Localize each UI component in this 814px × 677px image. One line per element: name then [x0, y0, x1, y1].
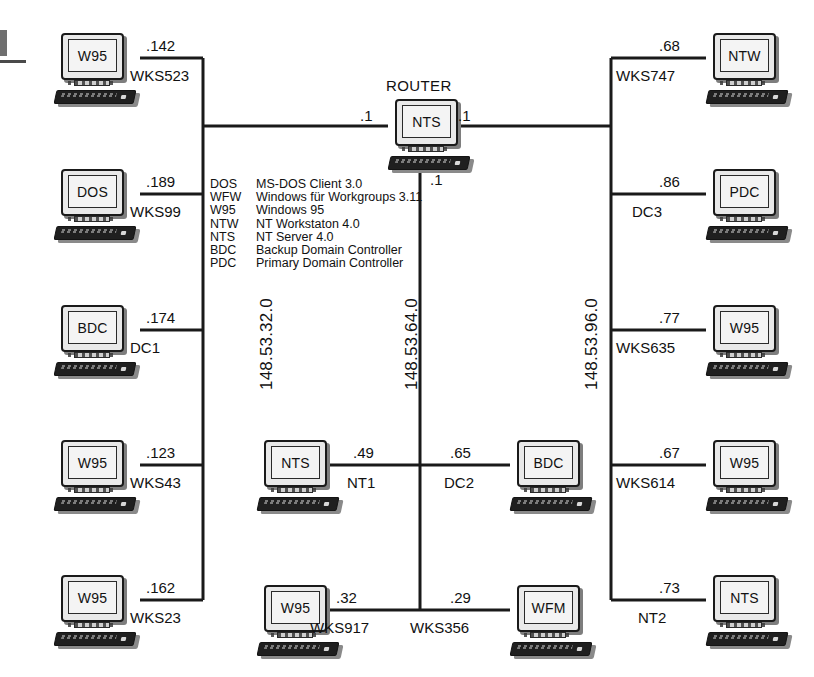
host-node[interactable]: W95 — [54, 574, 140, 650]
router-os-label: NTS — [412, 115, 441, 129]
host-os-label: WFM — [531, 601, 565, 615]
subnet-label-right: 148.53.96.0 — [583, 298, 600, 390]
host-name: DC2 — [444, 475, 474, 490]
host-os-label: NTS — [281, 456, 310, 470]
computer-icon: W95 — [54, 32, 140, 108]
monitor-vents — [402, 147, 450, 151]
host-os-label: DOS — [77, 185, 108, 199]
host-name: WKS99 — [130, 204, 181, 219]
computer-icon: W95 — [706, 439, 792, 515]
host-node[interactable]: NTS — [257, 439, 343, 515]
legend: DOS MS-DOS Client 3.0 WFW Windows für Wo… — [210, 178, 422, 270]
router-title: ROUTER — [386, 78, 452, 93]
host-ip: .67 — [659, 445, 680, 460]
host-os-label: W95 — [730, 456, 759, 470]
host-name: NT1 — [347, 475, 375, 490]
legend-row: NTW NT Workstaton 4.0 — [210, 218, 422, 231]
computer-icon: NTS — [706, 574, 792, 650]
host-os-label: PDC — [729, 185, 759, 199]
keyboard-indicator — [455, 161, 461, 165]
monitor-bezel: NTS — [395, 99, 458, 146]
keyboard — [388, 156, 471, 170]
computer-icon: NTW — [706, 32, 792, 108]
host-ip: .77 — [659, 310, 680, 325]
subnet-label-left: 148.53.32.0 — [258, 298, 275, 390]
legend-row: W95 Windows 95 — [210, 204, 422, 217]
host-name: DC3 — [632, 204, 662, 219]
router-interface-down-ip: .1 — [430, 172, 443, 187]
host-ip: .86 — [659, 174, 680, 189]
host-ip: .29 — [450, 590, 471, 605]
host-node[interactable]: W95 — [54, 32, 140, 108]
computer-icon: WFM — [510, 584, 596, 660]
host-node[interactable]: BDC — [54, 304, 140, 380]
computer-icon: W95 — [54, 439, 140, 515]
computer-icon: PDC — [706, 168, 792, 244]
legend-desc: Primary Domain Controller — [256, 257, 422, 270]
computer-icon: W95 — [54, 574, 140, 650]
host-name: WKS356 — [410, 620, 469, 635]
host-os-label: NTW — [728, 49, 760, 63]
legend-desc: Windows 95 — [256, 204, 422, 217]
computer-icon: BDC — [510, 439, 596, 515]
host-node[interactable]: NTW — [706, 32, 792, 108]
router-interface-right-ip: .1 — [458, 108, 471, 123]
network-diagram: ROUTER NTS .1 .1 .1 148.53.32.0 148.53.6… — [0, 0, 814, 677]
computer-icon: BDC — [54, 304, 140, 380]
host-ip: .142 — [146, 38, 175, 53]
host-name: WKS614 — [616, 475, 675, 490]
host-ip: .162 — [146, 580, 175, 595]
host-name: WKS917 — [310, 620, 369, 635]
host-ip: .73 — [659, 580, 680, 595]
computer-icon: W95 — [706, 304, 792, 380]
host-node[interactable]: DOS — [54, 168, 140, 244]
host-name: NT2 — [638, 610, 666, 625]
host-node[interactable]: WFM — [510, 584, 596, 660]
legend-abbr: W95 — [210, 204, 256, 217]
host-name: WKS747 — [616, 68, 675, 83]
host-os-label: NTS — [730, 591, 759, 605]
host-node[interactable]: PDC — [706, 168, 792, 244]
subnet-label-middle: 148.53.64.0 — [403, 298, 420, 390]
host-name: WKS43 — [130, 475, 181, 490]
monitor-screen: NTS — [402, 105, 451, 138]
legend-abbr: PDC — [210, 257, 256, 270]
host-ip: .189 — [146, 174, 175, 189]
host-name: WKS635 — [616, 340, 675, 355]
host-ip: .32 — [336, 590, 357, 605]
host-node[interactable]: W95 — [706, 304, 792, 380]
host-os-label: BDC — [77, 321, 107, 335]
host-node[interactable]: NTS — [706, 574, 792, 650]
router-interface-left-ip: .1 — [360, 108, 373, 123]
host-node[interactable]: BDC — [510, 439, 596, 515]
host-name: WKS523 — [130, 68, 189, 83]
host-ip: .68 — [659, 38, 680, 53]
legend-desc: NT Workstaton 4.0 — [256, 218, 422, 231]
keyboard-keys — [395, 159, 451, 163]
host-os-label: BDC — [533, 456, 563, 470]
host-os-label: W95 — [730, 321, 759, 335]
legend-row: PDC Primary Domain Controller — [210, 257, 422, 270]
host-node[interactable]: W95 — [706, 439, 792, 515]
host-ip: .65 — [450, 445, 471, 460]
host-name: WKS23 — [130, 610, 181, 625]
host-ip: .49 — [353, 445, 374, 460]
legend-abbr: NTW — [210, 218, 256, 231]
host-os-label: W95 — [78, 591, 107, 605]
computer-icon: DOS — [54, 168, 140, 244]
host-node[interactable]: W95 — [54, 439, 140, 515]
host-os-label: W95 — [281, 601, 310, 615]
host-ip: .123 — [146, 445, 175, 460]
host-ip: .174 — [146, 310, 175, 325]
host-name: DC1 — [130, 340, 160, 355]
host-os-label: W95 — [78, 456, 107, 470]
host-os-label: W95 — [78, 49, 107, 63]
computer-icon: NTS — [257, 439, 343, 515]
